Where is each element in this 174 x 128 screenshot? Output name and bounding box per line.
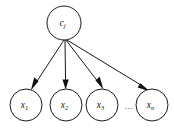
arrowhead-cj-x3 xyxy=(96,76,104,89)
node-group: cj x1 x2 x3 xyxy=(10,6,168,121)
edge-line-cj-x2 xyxy=(65,40,66,83)
diagram-canvas: cj x1 x2 x3 xyxy=(0,0,174,128)
node-xn-subscript: n xyxy=(151,104,154,111)
node-x3[interactable]: x3 xyxy=(86,89,118,121)
bayes-graph-svg: cj x1 x2 x3 xyxy=(0,0,174,128)
node-x3-subscript: 3 xyxy=(100,104,104,111)
edge-cj-to-x1 xyxy=(31,40,64,90)
edge-group xyxy=(31,40,150,92)
edge-cj-to-x3 xyxy=(66,40,103,89)
node-xn[interactable]: xn xyxy=(136,89,168,121)
edge-cj-to-xn xyxy=(67,40,150,92)
node-x1-subscript: 1 xyxy=(25,104,28,111)
edge-line-cj-x3 xyxy=(66,40,99,83)
node-x1[interactable]: x1 xyxy=(10,89,42,121)
node-cj-subscript: j xyxy=(63,22,66,29)
edge-line-cj-xn xyxy=(67,40,143,86)
edge-cj-to-x2 xyxy=(63,40,69,90)
node-x2[interactable]: x2 xyxy=(50,89,82,121)
arrowhead-cj-x1 xyxy=(31,77,39,90)
edge-line-cj-x1 xyxy=(36,40,65,84)
ellipsis-label: ... xyxy=(125,101,133,111)
node-cj[interactable]: cj xyxy=(47,6,81,40)
arrowhead-cj-x2 xyxy=(63,80,69,90)
